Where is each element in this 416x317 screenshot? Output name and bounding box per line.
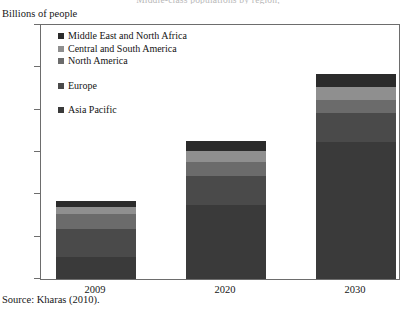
legend-item: Middle East and North Africa (58, 30, 208, 42)
clipped-figure-title: Middle-class populations by region, (0, 0, 416, 4)
legend-item-label: North America (68, 55, 128, 67)
y-axis-tick-mark (34, 109, 40, 110)
bar-2030 (316, 74, 396, 279)
legend-item: Asia Pacific (58, 104, 208, 116)
y-axis-tick-mark (34, 24, 40, 25)
y-axis-tick-mark (34, 236, 40, 237)
y-axis-tick-mark (34, 66, 40, 67)
bar-2020 (186, 141, 266, 279)
y-axis-tick-mark (34, 151, 40, 152)
bar-segment (186, 205, 266, 279)
bar-2009 (56, 201, 136, 279)
legend-item-label: Asia Pacific (68, 104, 117, 116)
bar-segment (186, 162, 266, 176)
legend-swatch-icon (58, 107, 64, 113)
bar-segment (56, 257, 136, 279)
legend-swatch-icon (58, 46, 64, 52)
bar-segment (316, 74, 396, 87)
bar-segment (56, 229, 136, 257)
legend-item: Central and South America (58, 43, 208, 55)
bar-segment (316, 142, 396, 279)
legend-item-label: Europe (68, 80, 97, 92)
bar-segment (56, 207, 136, 215)
x-axis-tick-label: 2020 (165, 284, 285, 295)
y-axis-title: Billions of people (2, 8, 77, 19)
bar-segment (56, 214, 136, 228)
legend-item-label: Central and South America (68, 43, 177, 55)
y-axis-tick-mark (34, 193, 40, 194)
legend-swatch-icon (58, 83, 64, 89)
y-axis-tick-mark (34, 278, 40, 279)
bar-segment (186, 141, 266, 151)
bar-segment (316, 87, 396, 100)
x-axis-tick-label: 2030 (295, 284, 415, 295)
x-axis-tick-label: 2009 (35, 284, 155, 295)
chart-legend: Middle East and North AfricaCentral and … (58, 30, 208, 117)
legend-item-label: Middle East and North Africa (68, 30, 187, 42)
legend-item: North America (58, 55, 208, 67)
bar-segment (316, 100, 396, 114)
bar-segment (186, 176, 266, 206)
bar-segment (316, 113, 396, 142)
legend-item: Europe (58, 80, 208, 92)
legend-swatch-icon (58, 58, 64, 64)
bar-segment (186, 151, 266, 162)
source-note: Source: Kharas (2010). (2, 294, 100, 305)
legend-swatch-icon (58, 33, 64, 39)
